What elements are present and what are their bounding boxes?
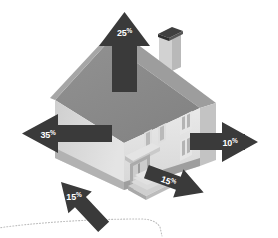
heat-loss-illustration: 25% 35% 10% 15% 15% xyxy=(0,0,278,238)
arrow-left-wall-value: 35 xyxy=(40,130,50,140)
arrow-right-wall-value: 10 xyxy=(222,138,232,148)
arrow-roof-value: 25 xyxy=(117,28,127,38)
arrow-floor-left-unit: % xyxy=(76,190,82,197)
arrow-floor-left-value: 15 xyxy=(66,192,76,202)
arrow-right-wall-unit: % xyxy=(232,137,238,144)
arrow-left-wall-unit: % xyxy=(50,128,56,135)
arrow-roof-unit: % xyxy=(127,27,133,34)
